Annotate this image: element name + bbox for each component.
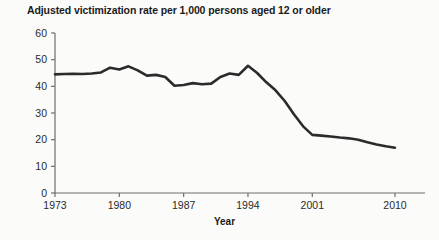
y-tick-label: 60 — [35, 27, 47, 39]
x-tick-label: 2010 — [383, 199, 407, 211]
x-tick-label: 1973 — [43, 199, 67, 211]
victimization-rate-line-chart: Adjusted victimization rate per 1,000 pe… — [0, 0, 439, 240]
x-axis-title-label: Year — [214, 216, 235, 227]
y-tick-label: 10 — [35, 160, 47, 172]
y-tick-group: 0102030405060 — [35, 27, 55, 199]
x-axis-title: Year — [0, 216, 439, 227]
y-tick-label: 20 — [35, 133, 47, 145]
y-tick-label: 40 — [35, 80, 47, 92]
y-tick-label: 30 — [35, 107, 47, 119]
x-axis: 197319801987199420012010 — [43, 193, 425, 211]
x-tick-label: 1987 — [172, 199, 196, 211]
y-tick-label: 50 — [35, 53, 47, 65]
x-tick-label: 1994 — [236, 199, 260, 211]
x-tick-label: 2001 — [301, 199, 325, 211]
y-tick-label: 0 — [41, 187, 47, 199]
victimization-rate-series — [55, 66, 395, 148]
y-axis: 0102030405060 — [35, 27, 55, 199]
x-tick-label: 1980 — [108, 199, 132, 211]
plot-area: 0102030405060 197319801987199420012010 — [0, 0, 439, 240]
x-tick-group: 197319801987199420012010 — [43, 193, 407, 211]
